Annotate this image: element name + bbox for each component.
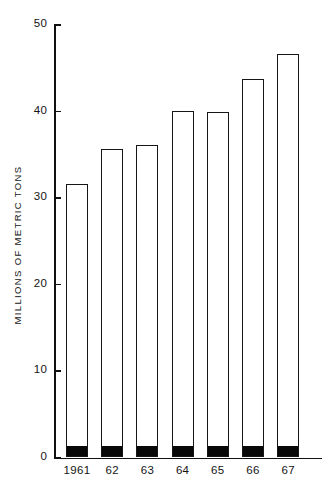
bar [66, 184, 88, 457]
y-axis-tick-label: 20 [21, 277, 47, 289]
y-axis-tick [54, 197, 61, 199]
y-axis-tick-label: 40 [21, 104, 47, 116]
y-axis-title-label: MILLIONS OF METRIC TONS [12, 165, 23, 324]
bar [277, 54, 299, 458]
bar [207, 112, 229, 457]
y-axis-tick-label: 10 [21, 363, 47, 375]
y-axis-tick [54, 370, 61, 372]
bar-base-segment [278, 446, 298, 456]
bar-base-segment [137, 446, 157, 456]
bar [172, 111, 194, 458]
y-axis-tick-label: 0 [21, 450, 47, 462]
y-axis-tick-label: 50 [21, 17, 47, 29]
bar-base-segment [102, 446, 122, 456]
bar-base-segment [208, 446, 228, 456]
bar [101, 149, 123, 458]
y-axis-tick-label: 30 [21, 190, 47, 202]
y-axis-tick [54, 284, 61, 286]
bar-base-segment [243, 446, 263, 456]
x-axis-line [54, 458, 322, 460]
y-axis-line [54, 25, 56, 459]
y-axis-tick [54, 111, 61, 113]
bar-base-segment [173, 446, 193, 456]
y-axis-title: MILLIONS OF METRIC TONS [0, 0, 34, 489]
x-axis-tick-label: 67 [263, 464, 313, 476]
bar-base-segment [67, 446, 87, 456]
y-axis-tick [54, 457, 61, 459]
bar-chart-figure: MILLIONS OF METRIC TONS 01020304050 1961… [0, 0, 327, 489]
y-axis-tick [54, 24, 61, 26]
bar [136, 145, 158, 457]
bar [242, 79, 264, 458]
